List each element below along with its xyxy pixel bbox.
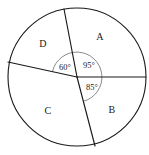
angle-label-95: 95°	[83, 60, 95, 70]
region-label-c: C	[45, 105, 52, 116]
region-label-b: B	[109, 104, 116, 115]
region-label-a: A	[96, 31, 104, 42]
angle-label-85: 85°	[86, 82, 98, 92]
region-label-d: D	[39, 38, 46, 49]
angle-label-60: 60°	[59, 62, 71, 72]
circle-sector-diagram: A B C D 95° 60° 85°	[0, 0, 149, 155]
diagram-canvas: A B C D 95° 60° 85°	[0, 0, 149, 155]
